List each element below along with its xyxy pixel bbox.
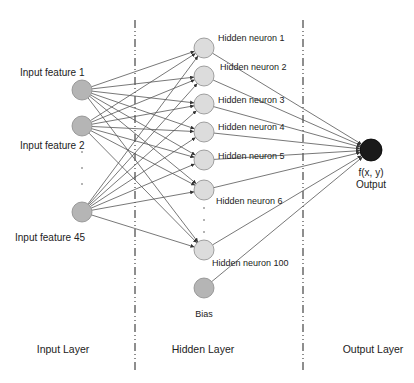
connection-edge	[92, 215, 195, 247]
neural-network-diagram	[0, 0, 414, 383]
hidden-node-1	[194, 38, 214, 58]
input-feature-label-1: Input feature 1	[20, 67, 85, 78]
hidden-neuron-label-1: Hidden neuron 1	[218, 33, 285, 44]
output-label: Output	[356, 179, 386, 190]
layer-label-hidden: Hidden Layer	[172, 343, 234, 355]
hidden-node-5	[194, 150, 214, 170]
connection-edge	[92, 126, 194, 131]
connection-edge	[90, 137, 195, 206]
hidden-neuron-label-4: Hidden neuron 4	[218, 122, 285, 133]
connection-edges	[88, 51, 363, 281]
hidden-neuron-label-5: Hidden neuron 5	[218, 151, 285, 162]
input-node-3	[72, 202, 92, 222]
hidden-node-7	[194, 240, 214, 260]
bias-node	[194, 278, 214, 298]
layer-label-output: Output Layer	[343, 343, 404, 355]
connection-edge	[91, 93, 194, 128]
hidden-node-2	[194, 66, 214, 86]
hidden-node-6	[194, 180, 214, 200]
output-node	[360, 139, 382, 161]
connection-edge	[89, 133, 197, 243]
hidden-ellipsis-dot	[203, 219, 205, 221]
hidden-node-3	[194, 94, 214, 114]
hidden-ellipsis-dot	[203, 231, 205, 233]
connection-edge	[92, 106, 194, 124]
hidden-neuron-label-7: Hidden neuron 100	[212, 258, 289, 269]
hidden-neuron-label-2: Hidden neuron 2	[220, 62, 287, 73]
input-ellipsis-dot	[81, 183, 83, 185]
input-feature-label-2: Input feature 2	[20, 140, 85, 151]
hidden-neuron-label-6: Hidden neuron 6	[216, 196, 283, 207]
output-function-label: f(x, y)	[359, 167, 384, 178]
connection-edge	[92, 129, 195, 158]
connection-edge	[91, 95, 196, 155]
input-node-1	[72, 80, 92, 100]
layer-label-input: Input Layer	[37, 343, 90, 355]
hidden-ellipsis-dot	[203, 207, 205, 209]
input-feature-label-3: Input feature 45	[15, 232, 85, 243]
input-node-2	[72, 116, 92, 136]
connection-edge	[88, 56, 198, 204]
hidden-node-4	[194, 122, 214, 142]
bias-label: Bias	[195, 309, 213, 320]
input-ellipsis-dot	[81, 167, 83, 169]
input-ellipsis-dot	[81, 151, 83, 153]
hidden-neuron-label-3: Hidden neuron 3	[218, 95, 285, 106]
